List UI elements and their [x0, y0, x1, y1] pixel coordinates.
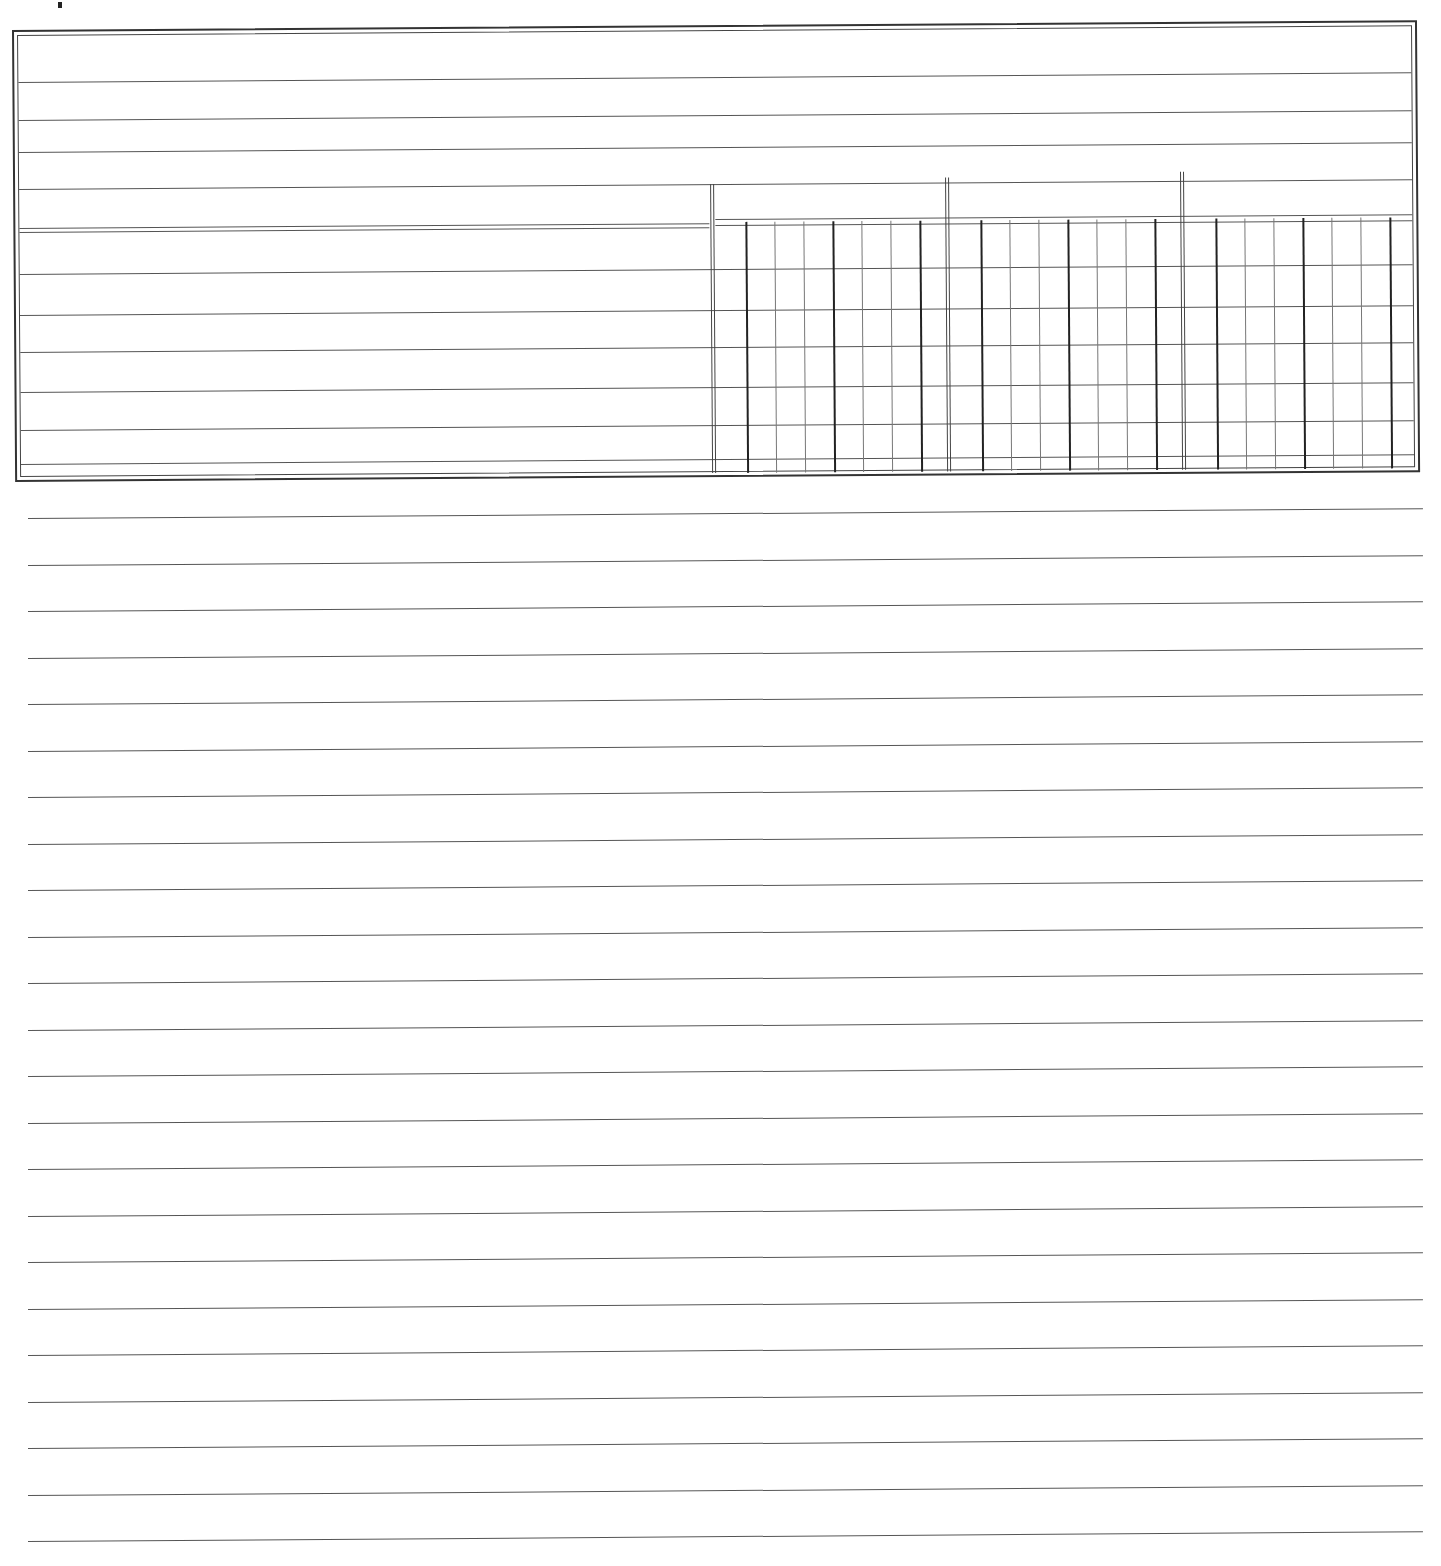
- group-header-line: [715, 214, 1412, 220]
- ruled-line: [28, 1159, 1423, 1170]
- ruled-line: [28, 508, 1423, 519]
- group-header-line: [715, 220, 1412, 226]
- row-line: [19, 142, 1412, 153]
- ruled-line: [28, 927, 1423, 938]
- row-line: [20, 342, 1413, 353]
- ruled-line: [28, 694, 1423, 705]
- ruled-line: [28, 1066, 1423, 1077]
- row-line: [21, 382, 1414, 393]
- ruled-line: [28, 834, 1423, 845]
- ruled-line: [28, 1438, 1423, 1449]
- row-line: [20, 305, 1413, 316]
- row-line: [21, 454, 1414, 465]
- ruled-line: [28, 973, 1423, 984]
- ruled-line: [28, 1113, 1423, 1124]
- ruled-line: [28, 555, 1423, 566]
- ruled-line: [28, 880, 1423, 891]
- ledger-table: [12, 20, 1420, 482]
- ruled-line: [28, 1392, 1423, 1403]
- row-line: [20, 264, 1413, 275]
- row-line: [19, 110, 1412, 121]
- ruled-line: [28, 1206, 1423, 1217]
- ruled-line: [28, 1531, 1423, 1542]
- ruled-line: [28, 601, 1423, 612]
- ruled-line: [28, 1020, 1423, 1031]
- ruled-line: [28, 787, 1423, 798]
- ruled-line: [28, 1299, 1423, 1310]
- row-line: [18, 72, 1411, 83]
- column-group-separator: [945, 177, 951, 471]
- ruled-line: [28, 1485, 1423, 1496]
- ruled-line: [28, 648, 1423, 659]
- row-line: [19, 179, 1412, 190]
- ruled-line: [28, 741, 1423, 752]
- ruled-line: [28, 1345, 1423, 1356]
- column-group-separator: [710, 184, 716, 473]
- row-line: [21, 420, 1414, 431]
- corner-mark: [58, 2, 62, 8]
- ruled-line: [28, 1252, 1423, 1263]
